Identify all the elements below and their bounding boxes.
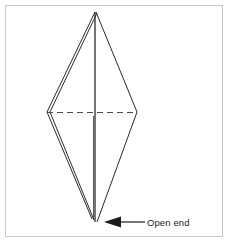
diagram-canvas xyxy=(0,0,230,245)
diamond-outline-group xyxy=(47,12,137,222)
edge-lower-left-outer xyxy=(47,112,92,219)
open-end-annotation xyxy=(104,217,145,228)
open-end-arrow-head xyxy=(104,217,121,228)
edge-upper-left-outer xyxy=(47,12,95,112)
edge-lower-left-inner xyxy=(50,112,94,220)
edge-upper-left-inner xyxy=(50,13,97,112)
figure-root: Open end xyxy=(0,0,230,245)
edge-lower-right xyxy=(97,112,137,222)
crease-group xyxy=(47,12,137,222)
edge-upper-right xyxy=(96,12,137,112)
